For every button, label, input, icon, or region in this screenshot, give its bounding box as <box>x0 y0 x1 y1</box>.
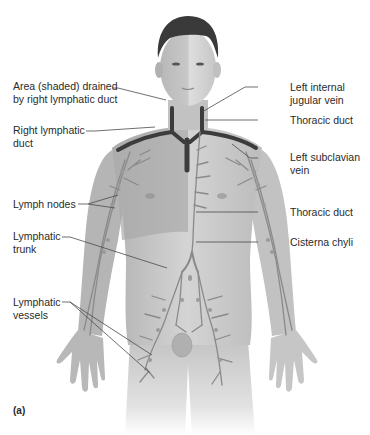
label-thoracic-duct-upper: Thoracic duct <box>290 114 353 127</box>
label-lymph-nodes: Lymph nodes <box>13 198 76 211</box>
label-thoracic-duct-lower: Thoracic duct <box>290 206 353 219</box>
head <box>155 16 221 106</box>
panel-letter: (a) <box>13 405 25 416</box>
label-lymphatic-trunk: Lymphatic trunk <box>13 230 60 256</box>
lymphatic-system-figure: Area (shaded) drained by right lymphatic… <box>0 0 370 435</box>
label-lymphatic-vessels: Lymphatic vessels <box>13 296 60 322</box>
legs <box>125 340 255 435</box>
label-area-shaded: Area (shaded) drained by right lymphatic… <box>13 80 117 106</box>
label-left-subclavian-vein: Left subclavian vein <box>290 151 360 177</box>
label-right-lymphatic-duct: Right lymphatic duct <box>13 124 85 150</box>
label-left-internal-jugular-vein: Left internal jugular vein <box>290 81 345 107</box>
label-cisterna-chyli: Cisterna chyli <box>290 236 353 249</box>
